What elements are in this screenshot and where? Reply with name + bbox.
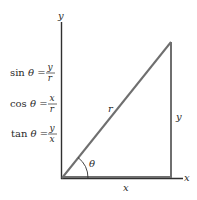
formula-sin: sin θ = y r <box>10 62 55 83</box>
angle-arc <box>78 158 88 179</box>
formula-tan-fn: tan θ = <box>11 128 48 139</box>
formula-tan: tan θ = y x <box>11 123 57 144</box>
formula-cos-den: r <box>50 104 55 114</box>
x-axis-label: x <box>184 172 190 183</box>
formula-sin-num: y <box>46 62 53 72</box>
formula-tan-num: y <box>48 123 55 133</box>
formula-sin-den: r <box>48 73 53 83</box>
hypotenuse-label: r <box>108 103 114 114</box>
trig-diagram: y x θ r y x sin θ = y r cos θ = x r tan … <box>0 0 197 200</box>
formula-tan-den: x <box>49 134 54 144</box>
opposite-label: y <box>175 111 182 122</box>
formula-cos-num: x <box>49 93 54 103</box>
y-axis-label: y <box>57 10 64 21</box>
formula-cos: cos θ = x r <box>10 93 57 114</box>
adjacent-label: x <box>123 182 129 193</box>
formula-cos-fn: cos θ = <box>10 98 48 109</box>
angle-label: θ <box>89 158 95 169</box>
formula-sin-fn: sin θ = <box>10 67 46 78</box>
